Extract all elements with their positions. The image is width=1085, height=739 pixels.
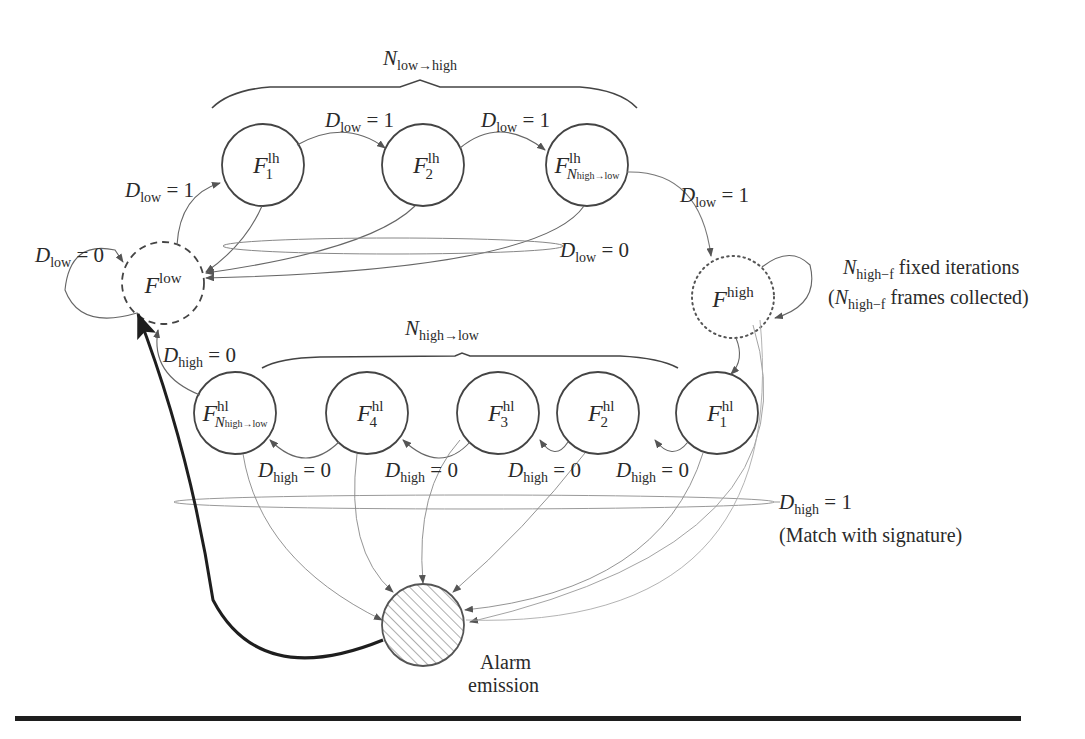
node-label-F1-hl: Fhl1 bbox=[707, 401, 727, 425]
edge-label-low-to-F1: Dlow = 1 bbox=[125, 180, 194, 205]
brace-top-label: Nlow→high bbox=[383, 48, 457, 73]
node-label-F4-hl: Fhl4 bbox=[357, 401, 377, 425]
edge-label-FNhl-to-low: Dhigh = 0 bbox=[163, 345, 236, 370]
node-label-F-low: Flow bbox=[144, 273, 181, 297]
edge-label-F1-to-F2: Dlow = 1 bbox=[325, 110, 394, 135]
edge-label-F4-to-FN: Dhigh = 0 bbox=[258, 460, 331, 485]
node-label-F2-hl: Fhl2 bbox=[588, 401, 608, 425]
edge-label-hl-to-alarm: Dhigh = 1 bbox=[779, 492, 852, 517]
edge-label-F1-to-F2: Dhigh = 0 bbox=[616, 460, 689, 485]
node-label-F2-lh: Flh2 bbox=[413, 153, 433, 177]
figure-bottom-rule bbox=[15, 716, 1021, 721]
match-signature-note: (Match with signature) bbox=[779, 525, 962, 545]
high-iterations-note-line1: Nhigh−f fixed iterations bbox=[843, 257, 1019, 282]
brace-bottom-label: Nhigh→low bbox=[405, 318, 479, 343]
edge-label-F2-to-F3: Dhigh = 0 bbox=[508, 460, 581, 485]
node-label-F-high: Fhigh bbox=[712, 287, 753, 311]
node-label-FN-hl: FhlNhigh→low bbox=[202, 401, 267, 425]
edge-label-FN-to-high: Dlow = 1 bbox=[680, 185, 749, 210]
node-alarm bbox=[382, 584, 464, 666]
alarm-label-line2: emission bbox=[468, 675, 539, 695]
edge-label-F2-to-FN: Dlow = 1 bbox=[481, 110, 550, 135]
edge-label-F3-to-F4: Dhigh = 0 bbox=[385, 460, 458, 485]
node-label-F3-hl: Fhl3 bbox=[488, 401, 508, 425]
node-label-F1-lh: Flh1 bbox=[253, 153, 273, 177]
edge-label-low-self: Dlow = 0 bbox=[35, 245, 104, 270]
edge-label-lh-back-to-low: Dlow = 0 bbox=[560, 240, 629, 265]
node-label-FN-lh: FlhNhigh→low bbox=[554, 153, 619, 177]
brace-bottom bbox=[262, 353, 678, 368]
alarm-label-line1: Alarm bbox=[480, 652, 531, 672]
high-iterations-note-line2: (Nhigh−f frames collected) bbox=[828, 287, 1029, 312]
brace-top bbox=[212, 80, 637, 108]
